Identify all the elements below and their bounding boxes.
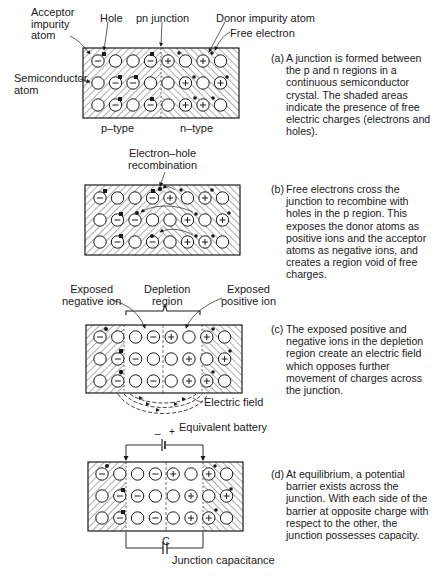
caption-c-tag: (c) — [271, 323, 283, 335]
semiconductor-atom — [218, 375, 230, 387]
caption-b-text: Free electrons cross the junction to rec… — [286, 183, 436, 281]
semiconductor-atom — [216, 236, 228, 248]
caption-b: (b) Free electrons cross the junction to… — [271, 183, 436, 281]
semiconductor-atom — [214, 99, 226, 111]
label-p-type: p–type — [101, 122, 134, 134]
caption-d: (d) At equilibrium, a potential barrier … — [271, 468, 436, 541]
semiconductor-atom — [146, 214, 158, 226]
semiconductor-atom — [94, 214, 106, 226]
semiconductor-atom — [129, 192, 141, 204]
semiconductor-atom — [129, 331, 141, 343]
label-pn-junction: pn junction — [136, 12, 189, 24]
semiconductor-atom — [127, 55, 139, 67]
label-n-type: n–type — [180, 122, 213, 134]
label-free-electron: Free electron — [230, 27, 295, 39]
semiconductor-atom — [111, 192, 123, 204]
caption-a-text: A junction is formed between the p and n… — [286, 52, 436, 137]
electric-field-lines — [118, 394, 208, 414]
semiconductor-atom — [220, 512, 232, 524]
label-junction-capacitance: Junction capacitance — [172, 554, 275, 566]
semiconductor-atom — [114, 468, 126, 480]
semiconductor-atom — [183, 331, 195, 343]
semiconductor-atom — [167, 512, 179, 524]
semiconductor-atom — [199, 214, 211, 226]
semiconductor-atom — [181, 192, 193, 204]
semiconductor-atom — [165, 353, 177, 365]
equivalent-battery-circuit — [126, 439, 203, 460]
panel-a-crystal — [70, 22, 239, 118]
semiconductor-atom — [179, 55, 191, 67]
semiconductor-atom — [203, 490, 215, 502]
semiconductor-atom — [129, 236, 141, 248]
semiconductor-atom — [167, 490, 179, 502]
semiconductor-atom — [94, 236, 106, 248]
semiconductor-atom — [94, 353, 106, 365]
semiconductor-atom — [129, 375, 141, 387]
semiconductor-atom — [220, 468, 232, 480]
semiconductor-atom — [131, 512, 143, 524]
semiconductor-atom — [214, 55, 226, 67]
caption-d-tag: (d) — [271, 468, 284, 480]
semiconductor-atom — [197, 77, 209, 89]
semiconductor-atom — [144, 77, 156, 89]
semiconductor-atom — [96, 512, 108, 524]
label-capacitor-c: C — [162, 535, 170, 547]
label-exposed-positive-ion: Exposed positive ion — [221, 283, 276, 307]
label-depletion-region: Depletion region — [144, 283, 190, 307]
semiconductor-atom — [201, 353, 213, 365]
semiconductor-atom — [147, 353, 159, 365]
label-electron-hole-recombination: Electron–hole recombination — [128, 147, 197, 171]
semiconductor-atom — [94, 375, 106, 387]
semiconductor-atom — [165, 375, 177, 387]
panel-b-crystal — [85, 172, 240, 255]
semiconductor-atom — [149, 490, 161, 502]
caption-b-tag: (b) — [271, 183, 284, 195]
caption-d-text: At equilibrium, a potential barrier exis… — [286, 468, 436, 541]
label-acceptor-impurity-atom: Acceptor impurity atom — [31, 7, 74, 42]
label-equivalent-battery: Equivalent battery — [179, 421, 267, 433]
caption-c: (c) The exposed positive and negative io… — [271, 323, 436, 396]
semiconductor-atom — [109, 55, 121, 67]
semiconductor-atom — [96, 490, 108, 502]
label-hole: Hole — [100, 12, 123, 24]
semiconductor-atom — [164, 214, 176, 226]
label-battery-minus: – — [155, 428, 161, 440]
semiconductor-atom — [127, 99, 139, 111]
label-battery-plus: + — [169, 426, 175, 438]
label-electric-field: Electric field — [204, 396, 263, 408]
caption-a-tag: (a) — [271, 52, 284, 64]
semiconductor-atom — [218, 331, 230, 343]
semiconductor-atom — [164, 236, 176, 248]
semiconductor-atom — [185, 468, 197, 480]
semiconductor-atom — [216, 192, 228, 204]
label-donor-impurity-atom: Donor impurity atom — [216, 12, 315, 24]
semiconductor-atom — [131, 468, 143, 480]
semiconductor-atom — [92, 99, 104, 111]
caption-c-text: The exposed positive and negative ions i… — [286, 323, 436, 396]
label-exposed-negative-ion: Exposed negative ion — [62, 283, 121, 307]
semiconductor-atom — [92, 77, 104, 89]
semiconductor-atom — [162, 77, 174, 89]
semiconductor-atom — [112, 331, 124, 343]
pn-junction-figure: Acceptor impurity atom Hole pn junction … — [0, 0, 436, 578]
semiconductor-atom — [162, 99, 174, 111]
label-semiconductor-atom: Semiconductor atom — [14, 73, 87, 96]
caption-a: (a) A junction is formed between the p a… — [271, 52, 436, 137]
